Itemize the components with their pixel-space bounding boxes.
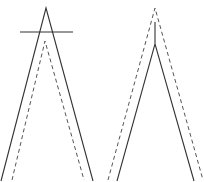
left-figure [1, 8, 93, 181]
diagram-canvas [0, 0, 204, 182]
right-figure [108, 8, 203, 181]
left-solid-chevron [1, 8, 93, 181]
left-dashed-chevron [12, 41, 84, 180]
right-solid-stemmed-chevron [117, 22, 194, 181]
